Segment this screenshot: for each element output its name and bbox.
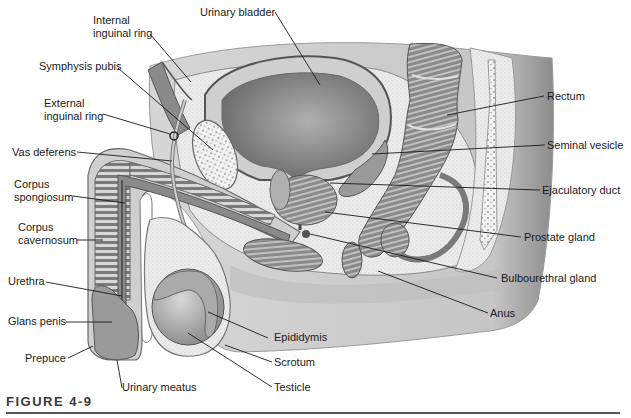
label-anus: Anus <box>490 307 515 320</box>
caption-divider <box>6 412 620 414</box>
label-corpus-cavernosum: Corpus cavernosum <box>18 221 78 247</box>
label-urethra: Urethra <box>8 275 45 288</box>
label-glans-penis: Glans penis <box>8 315 66 328</box>
label-urinary-bladder: Urinary bladder <box>200 6 275 19</box>
label-internal-inguinal-ring: Internal inguinal ring <box>93 14 152 40</box>
label-urinary-meatus: Urinary meatus <box>122 381 197 394</box>
label-external-inguinal-ring: External inguinal ring <box>44 97 103 123</box>
label-bulbourethral-gland: Bulbourethral gland <box>501 272 596 285</box>
label-epididymis: Epididymis <box>274 331 327 344</box>
anatomy-figure: Internal inguinal ring Urinary bladder S… <box>0 0 631 418</box>
label-prostate-gland: Prostate gland <box>524 231 595 244</box>
label-symphysis-pubis: Symphysis pubis <box>39 60 122 73</box>
label-rectum: Rectum <box>547 90 585 103</box>
label-vas-deferens: Vas deferens <box>12 146 76 159</box>
label-testicle: Testicle <box>274 381 311 394</box>
label-scrotum: Scrotum <box>274 356 315 369</box>
figure-caption: FIGURE 4-9 <box>6 394 93 409</box>
label-prepuce: Prepuce <box>25 352 66 365</box>
bulbourethral-gland-shape <box>302 230 310 238</box>
label-corpus-spongiosum: Corpus spongiosum <box>14 178 73 204</box>
label-ejaculatory-duct: Ejaculatory duct <box>542 184 620 197</box>
label-seminal-vesicle: Seminal vesicle <box>547 139 623 152</box>
